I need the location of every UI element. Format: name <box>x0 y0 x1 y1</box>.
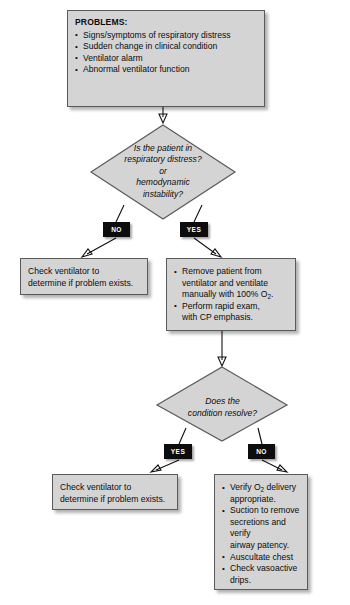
verify-line-1-subscript: 2 <box>261 486 265 493</box>
verify-line-1-pre: Verify O <box>230 482 261 492</box>
flowchart-canvas: PROBLEMS: Signs/symptoms of respiratory … <box>0 0 350 605</box>
verify-line-1-post: delivery <box>264 482 296 492</box>
badge-decision-two-no: NO <box>248 444 275 459</box>
verify-line-8: drips. <box>230 575 251 585</box>
verify-line-2: appropriate. <box>230 494 276 504</box>
verify-box: Verify O2 delivery appropriate. Suction … <box>214 474 308 590</box>
verify-line-5: airway patency. <box>230 540 289 550</box>
verify-line-3: Suction to remove <box>230 505 299 515</box>
verify-line-7: Check vasoactive <box>230 563 297 573</box>
check-ventilator-bottom-line-1: Check ventilator to <box>60 482 170 494</box>
list-item: Suction to remove secretions and verify … <box>222 505 300 551</box>
list-item: Check vasoactive drips. <box>222 563 300 586</box>
check-ventilator-box-bottom: Check ventilator to determine if problem… <box>52 474 178 510</box>
list-item: Verify O2 delivery appropriate. <box>222 482 300 505</box>
verify-line-4: secretions and verify <box>230 517 286 539</box>
verify-list: Verify O2 delivery appropriate. Suction … <box>222 482 300 586</box>
list-item: Auscultate chest <box>222 552 300 564</box>
check-ventilator-bottom-line-2: determine if problem exists. <box>60 494 170 506</box>
verify-line-6: Auscultate chest <box>230 552 293 562</box>
badge-decision-two-yes: YES <box>164 444 192 459</box>
